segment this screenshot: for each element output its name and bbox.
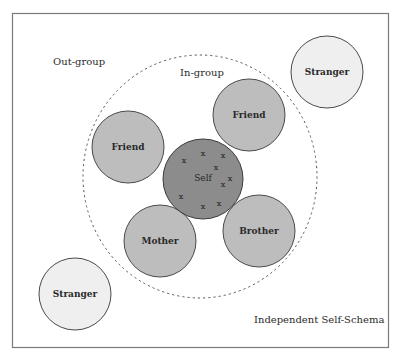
self-attribute-mark: x — [221, 180, 226, 189]
self-attribute-mark: x — [182, 156, 187, 165]
friend-label: Friend — [112, 142, 146, 152]
self-attribute-mark: x — [179, 192, 184, 201]
out-group-label: Out-group — [53, 56, 105, 67]
self-attribute-mark: x — [221, 151, 226, 160]
stranger-label: Stranger — [305, 67, 350, 77]
friend-label: Friend — [233, 110, 267, 120]
self-attribute-mark: x — [228, 174, 233, 183]
node-self: Self xxxxxxxxx — [163, 139, 243, 219]
self-attribute-mark: x — [214, 163, 219, 172]
node-friend-right: Friend — [213, 79, 285, 151]
schema-title: Independent Self-Schema — [254, 314, 384, 325]
self-attribute-mark: x — [201, 202, 206, 211]
node-stranger-top: Stranger — [291, 36, 363, 108]
node-brother: Brother — [223, 195, 295, 267]
node-mother: Mother — [124, 205, 196, 277]
independent-self-schema-diagram: Out-group In-group Stranger Stranger Fri… — [0, 0, 399, 360]
mother-label: Mother — [141, 236, 178, 246]
self-attribute-mark: x — [201, 149, 206, 158]
brother-label: Brother — [239, 226, 279, 236]
self-attribute-mark: x — [217, 199, 222, 208]
self-label: Self — [194, 173, 212, 183]
in-group-label: In-group — [180, 67, 224, 78]
stranger-label: Stranger — [53, 289, 98, 299]
node-friend-left: Friend — [92, 111, 164, 183]
node-stranger-bottom: Stranger — [39, 258, 111, 330]
